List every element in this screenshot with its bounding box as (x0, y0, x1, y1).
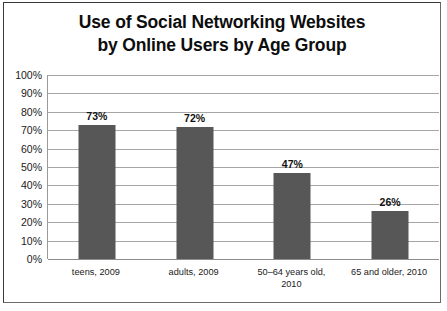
bar[interactable] (176, 127, 213, 259)
gridline (48, 259, 439, 260)
x-axis-category-label-line: 65 and older, 2010 (340, 266, 438, 278)
chart-title-line-1: Use of Social Networking Websites (4, 11, 440, 34)
plot-area: 100%90%80%70%60%50%40%30%20%10%0% 73%72%… (47, 75, 439, 259)
chart-title-line-2: by Online Users by Age Group (4, 34, 440, 57)
x-axis-category-label: 65 and older, 2010 (340, 266, 438, 278)
y-axis-tick-label: 40% (21, 179, 42, 191)
bar-slot: 73% (48, 75, 146, 259)
bar-value-label: 72% (184, 112, 205, 124)
y-axis-tick-label: 80% (21, 106, 42, 118)
bar-value-label: 26% (380, 196, 401, 208)
x-axis-category-label-line: teens, 2009 (47, 266, 145, 278)
x-axis-category-label: adults, 2009 (145, 266, 243, 278)
x-axis-category-label: teens, 2009 (47, 266, 145, 278)
bar-slot: 26% (341, 75, 439, 259)
x-axis-category-label-line: 2010 (243, 278, 341, 290)
bar[interactable] (78, 125, 115, 259)
y-axis-tick-label: 60% (21, 143, 42, 155)
x-axis-category-label-line: 50–64 years old, (243, 266, 341, 278)
y-axis-tick-label: 50% (21, 161, 42, 173)
x-axis-category-labels: teens, 2009adults, 200950–64 years old,2… (47, 262, 438, 302)
x-axis-category-label-line: adults, 2009 (145, 266, 243, 278)
bar[interactable] (274, 173, 311, 259)
bar-series: 73%72%47%26% (48, 75, 439, 259)
bar-value-label: 73% (86, 110, 107, 122)
chart-title: Use of Social Networking Websites by Onl… (4, 11, 440, 57)
bar-slot: 47% (244, 75, 342, 259)
bar-slot: 72% (146, 75, 244, 259)
bar-value-label: 47% (282, 158, 303, 170)
y-axis-tick-label: 100% (15, 69, 42, 81)
bar[interactable] (372, 211, 409, 259)
chart-figure: Use of Social Networking Websites by Onl… (3, 2, 441, 303)
y-axis-tick-label: 10% (21, 235, 42, 247)
y-axis-tick-label: 90% (21, 87, 42, 99)
y-axis-tick-label: 70% (21, 124, 42, 136)
y-axis-tick-label: 0% (27, 253, 42, 265)
y-axis-tick-label: 20% (21, 216, 42, 228)
y-axis-tick-label: 30% (21, 198, 42, 210)
x-axis-category-label: 50–64 years old,2010 (243, 266, 341, 290)
